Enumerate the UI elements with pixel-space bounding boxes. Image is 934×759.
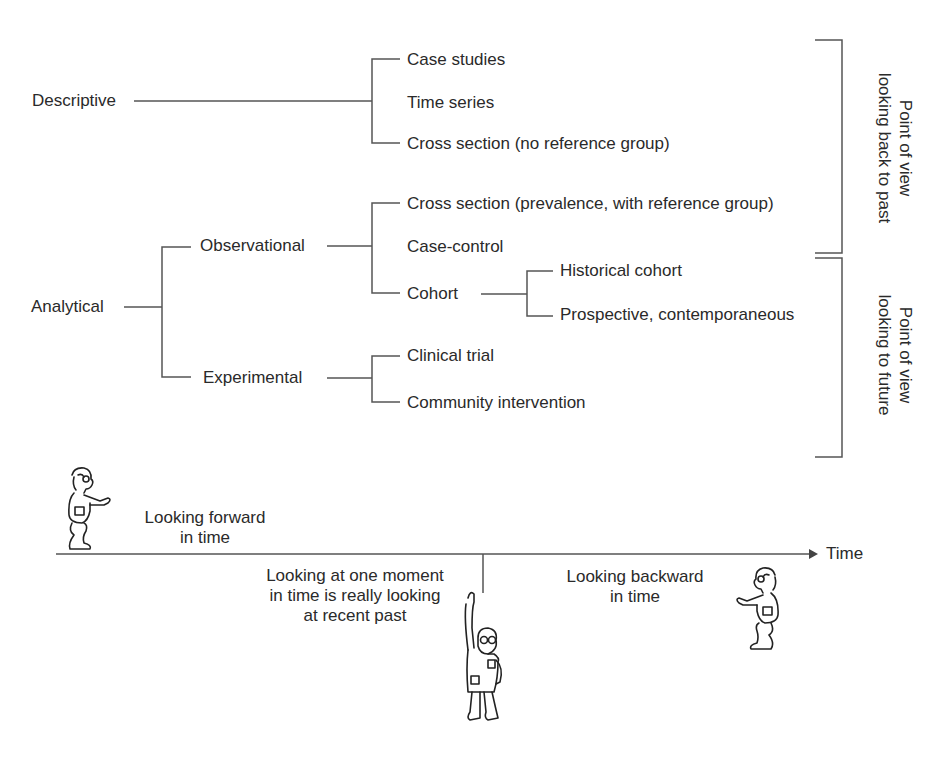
node-case-control: Case-control — [407, 237, 503, 257]
label-looking-forward: Looking forward in time — [130, 508, 280, 548]
figure-looking-forward-icon — [60, 465, 120, 555]
forward-line1: Looking forward — [130, 508, 280, 528]
node-time-series: Time series — [407, 93, 494, 113]
bracket-future-line1: Point of view — [895, 270, 916, 440]
forward-line2: in time — [130, 528, 280, 548]
node-experimental: Experimental — [203, 368, 302, 388]
node-analytical: Analytical — [31, 297, 104, 317]
node-clinical-trial: Clinical trial — [407, 346, 494, 366]
node-historical-cohort: Historical cohort — [560, 261, 682, 281]
label-one-moment: Looking at one moment in time is really … — [245, 566, 465, 626]
figure-looking-backward-icon — [735, 565, 785, 660]
moment-line1: Looking at one moment — [245, 566, 465, 586]
node-community-intervention: Community intervention — [407, 393, 586, 413]
node-cross-section-prevalence: Cross section (prevalence, with referenc… — [407, 194, 774, 214]
node-cohort: Cohort — [407, 284, 458, 304]
node-descriptive: Descriptive — [32, 91, 116, 111]
bracket-future-line2: looking to future — [874, 270, 895, 440]
bracket-label-future: Point of view looking to future — [874, 270, 916, 440]
node-case-studies: Case studies — [407, 50, 505, 70]
bracket-label-past: Point of view looking back to past — [874, 58, 916, 238]
backward-line2: in time — [555, 587, 715, 607]
moment-line3: at recent past — [245, 606, 465, 626]
figure-one-moment-icon — [454, 588, 514, 738]
backward-line1: Looking backward — [555, 567, 715, 587]
node-cross-section-no-ref: Cross section (no reference group) — [407, 134, 670, 154]
time-axis-label: Time — [826, 544, 863, 564]
bracket-past-line2: looking back to past — [874, 58, 895, 238]
node-prospective: Prospective, contemporaneous — [560, 305, 794, 325]
bracket-past-line1: Point of view — [895, 58, 916, 238]
label-looking-backward: Looking backward in time — [555, 567, 715, 607]
node-observational: Observational — [200, 236, 305, 256]
moment-line2: in time is really looking — [245, 586, 465, 606]
